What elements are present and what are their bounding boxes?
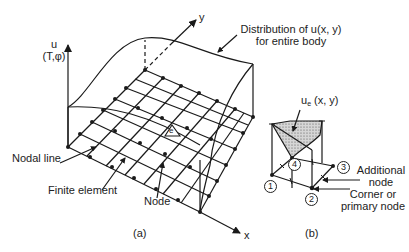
nodal-line-label: Nodal line — [12, 152, 61, 164]
y-axis-label: y — [199, 11, 205, 23]
node-number-2: 2 — [305, 193, 318, 206]
distribution-label: Distribution of u(x, y) for entire body — [236, 23, 346, 47]
u-axis-label: u (T,φ) — [40, 38, 68, 62]
finite-element-label: Finite element — [48, 184, 117, 196]
corner-node-label: Corner or primary node — [338, 188, 408, 212]
ue-label: ue (x, y) — [301, 94, 339, 110]
distribution-arrow — [218, 35, 237, 52]
element-marker-label: e — [169, 125, 173, 137]
node-label: Node — [144, 195, 170, 207]
nodal-line-arrow — [60, 147, 96, 163]
distribution-surface-top — [68, 38, 253, 107]
additional-node-label: Additional node — [352, 164, 409, 188]
node-number-4: 4 — [288, 158, 301, 171]
figure-b-caption: (b) — [305, 227, 318, 239]
node-number-1: 1 — [264, 180, 277, 193]
x-axis — [200, 212, 240, 233]
figure-a-caption: (a) — [133, 227, 146, 239]
element-shaded-surface — [272, 121, 322, 158]
figure-b — [272, 110, 360, 189]
node-number-3: 3 — [337, 161, 350, 174]
x-axis-label: x — [244, 229, 250, 241]
y-axis-dashed — [145, 45, 170, 70]
